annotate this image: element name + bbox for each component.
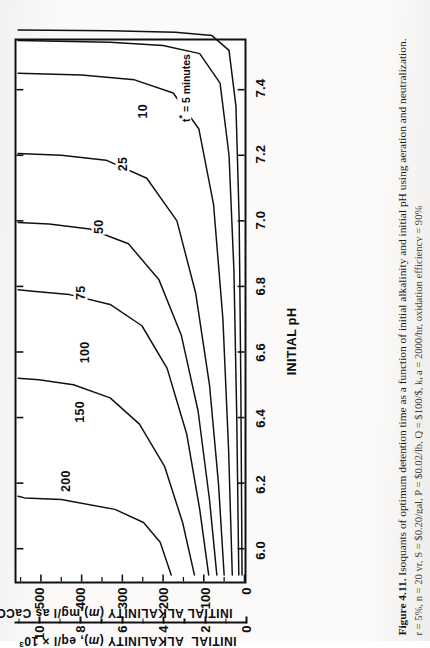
y2-tick-mark: [204, 616, 206, 623]
contour-label-5: t* = 5 minutes: [177, 52, 192, 124]
figure-rotated-container: 20015010075502510t* = 5 minutes 6.06.26.…: [0, 0, 352, 641]
figure-caption-block: Figure 4.11. Isoquants of optimum detent…: [398, 0, 428, 641]
x-tick-label: 7.4: [252, 78, 267, 97]
y2-tick-mark: [79, 616, 81, 623]
y2-minor-tick-mark: [183, 619, 184, 624]
y-tick-label: 0: [239, 587, 254, 613]
x-axis-title: INITIAL pH: [284, 307, 298, 375]
x-tick-label: 6.0: [252, 541, 267, 560]
x-tick-label: 6.6: [252, 342, 267, 361]
y2-minor-tick-mark: [225, 619, 226, 624]
y2-tick-mark: [121, 616, 123, 623]
contour-label-10: 10: [135, 102, 149, 119]
contour-labels: 20015010075502510t* = 5 minutes: [14, 38, 246, 583]
y2-tick-mark: [245, 616, 247, 623]
caption-params-mid: a = 2000/hr, oxidation efficiency = 90%: [413, 206, 424, 375]
contour-label-25: 25: [115, 155, 129, 172]
contour-label-150: 150: [72, 399, 86, 423]
figure-body: 20015010075502510t* = 5 minutes 6.06.26.…: [0, 0, 352, 641]
caption-params-prefix: r = 5%, n = 20 yr, S = $0.20/gal, P = $0…: [413, 380, 424, 636]
y-axis-secondary-title: INITIAL ALKALINITY (m), eq/l × 103: [18, 633, 236, 648]
contour-label-75: 75: [73, 284, 87, 301]
x-tick-label: 6.4: [252, 409, 267, 428]
x-tick-label: 7.0: [252, 210, 267, 229]
x-tick-label: 7.2: [252, 144, 267, 163]
caption-params-sub: L: [419, 375, 428, 380]
y2-tick-mark: [162, 616, 164, 623]
y2-tick-label: 0: [239, 625, 254, 643]
caption-text: Isoquants of optimum detention time as a…: [396, 38, 408, 575]
contour-label-200: 200: [58, 469, 72, 493]
contour-label-100: 100: [77, 340, 91, 364]
y-axis-title: INITIAL ALKALINITY (m),mg/l as CaCO3: [0, 603, 232, 619]
contour-label-50: 50: [91, 218, 105, 235]
y2-minor-tick-mark: [100, 619, 101, 624]
x-tick-label: 6.8: [252, 276, 267, 295]
y2-axis-line: [14, 621, 246, 623]
x-tick-label: 6.2: [252, 475, 267, 494]
figure-number: Figure 4.11.: [396, 578, 408, 635]
caption-line-2: r = 5%, n = 20 yr, S = $0.20/gal, P = $0…: [412, 0, 430, 636]
y2-minor-tick-mark: [142, 619, 143, 624]
y2-minor-tick-mark: [59, 619, 60, 624]
y2-tick-mark: [38, 616, 40, 623]
caption-line-1: Figure 4.11. Isoquants of optimum detent…: [395, 0, 410, 636]
y2-minor-tick-mark: [18, 619, 19, 624]
